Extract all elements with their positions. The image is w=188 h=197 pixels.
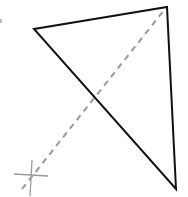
triangle-shape: [34, 7, 176, 189]
diagram-canvas: [0, 0, 188, 197]
dashed-diagonal-line: [22, 9, 165, 189]
edge-mark: [0, 19, 2, 23]
